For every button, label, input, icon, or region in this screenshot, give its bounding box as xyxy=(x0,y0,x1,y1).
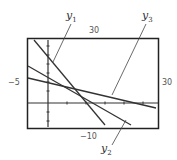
xmin-label: −5 xyxy=(8,79,20,87)
ymax-label: 30 xyxy=(89,27,99,35)
y3-label-subscript: 3 xyxy=(148,16,152,24)
graphing-calculator-figure: 30 −5 30 −10 y1 y3 y2 xyxy=(0,0,177,160)
y1-label-subscript: 1 xyxy=(72,16,76,24)
y3-label: y3 xyxy=(142,10,153,24)
ymin-label: −10 xyxy=(80,133,97,141)
y2-leader-line xyxy=(112,120,126,145)
y1-label: y1 xyxy=(66,10,77,24)
viewing-window-frame xyxy=(28,39,159,129)
xmax-label: 30 xyxy=(162,79,172,87)
series-y2-line xyxy=(28,66,131,125)
y3-leader-line xyxy=(112,24,146,95)
y1-leader-line xyxy=(53,24,71,62)
y2-label: y2 xyxy=(101,143,112,157)
y2-label-subscript: 2 xyxy=(107,149,111,157)
